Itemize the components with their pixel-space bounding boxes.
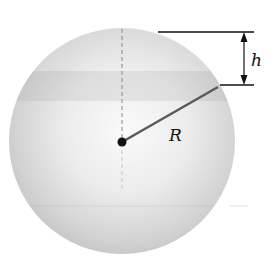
sphere-diagram: h R xyxy=(0,0,278,260)
center-dot xyxy=(118,138,127,147)
radius-label: R xyxy=(168,125,182,145)
height-label: h xyxy=(251,50,262,70)
arrow-down-icon xyxy=(241,75,248,85)
arrow-up-icon xyxy=(241,32,248,42)
cap-band xyxy=(0,71,278,101)
